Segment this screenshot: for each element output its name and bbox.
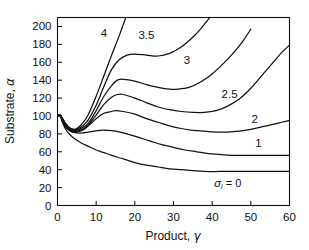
x-tick-label: 40 [206,211,219,223]
y-tick-label: 40 [39,164,52,176]
y-tick-label: 0 [45,200,51,212]
y-tick-label: 160 [32,56,51,68]
x-tick-label: 30 [167,211,180,223]
y-tick-label: 180 [32,38,51,50]
x-tick-label: 10 [90,211,103,223]
curve-label-3.5: 3.5 [138,29,154,41]
y-tick-label: 100 [32,110,51,122]
x-tick-label: 20 [128,211,141,223]
x-tick-label: 50 [244,211,257,223]
curve-label-2: 2 [251,113,257,125]
curve-label-3: 3 [184,54,190,66]
y-tick-label: 20 [39,182,52,194]
y-tick-label: 80 [39,128,52,140]
x-tick-label: 60 [283,211,296,223]
curve-label-1: 1 [255,137,261,149]
curve-label-2.5: 2.5 [222,88,238,100]
y-tick-label: 60 [39,146,52,158]
x-tick-label: 0 [54,211,60,223]
y-tick-label: 200 [32,20,51,32]
y-axis-title: Substrate, α [3,78,17,144]
chart-figure: 020406080100120140160180200 010203040506… [0,0,309,250]
line-chart-svg: 020406080100120140160180200 010203040506… [0,0,309,250]
x-axis-title: Product, γ [145,229,201,243]
y-tick-label: 140 [32,74,51,86]
curve-label-4: 4 [101,27,108,39]
y-tick-label: 120 [32,92,51,104]
